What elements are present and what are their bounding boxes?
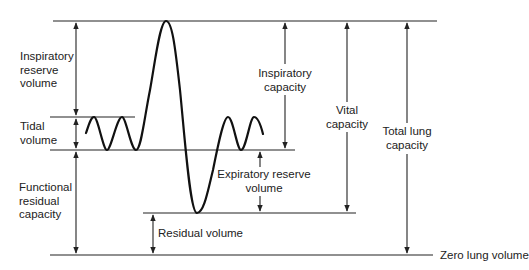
tlc-label-line1: Total lung <box>372 125 442 139</box>
zero-volume-label: Zero lung volume <box>440 249 529 263</box>
irv-label-line1: Inspiratory <box>20 50 74 64</box>
irv-label: Inspiratory reserve volume <box>20 50 74 91</box>
irv-label-line2: reserve <box>20 64 74 78</box>
vc-label-line2: capacity <box>317 118 377 132</box>
vc-label-line1: Vital <box>317 104 377 118</box>
frc-label-line1: Functional <box>19 181 72 195</box>
tidal-label: Tidal volume <box>20 120 57 147</box>
frc-label-line2: residual <box>19 195 72 209</box>
erv-label: Expiratory reserve volume <box>214 168 314 195</box>
tidal-label-line1: Tidal <box>20 120 57 134</box>
ic-label: Inspiratory capacity <box>250 67 320 94</box>
vc-label: Vital capacity <box>317 104 377 131</box>
tidal-label-line2: volume <box>20 134 57 148</box>
irv-label-line3: volume <box>20 77 74 91</box>
tlc-label-line2: capacity <box>372 139 442 153</box>
ic-label-line2: capacity <box>250 81 320 95</box>
tlc-label: Total lung capacity <box>372 125 442 152</box>
rv-label: Residual volume <box>158 227 243 241</box>
frc-label: Functional residual capacity <box>19 181 72 222</box>
ic-label-line1: Inspiratory <box>250 67 320 81</box>
erv-label-line2: volume <box>214 182 314 196</box>
erv-label-line1: Expiratory reserve <box>214 168 314 182</box>
frc-label-line3: capacity <box>19 208 72 222</box>
